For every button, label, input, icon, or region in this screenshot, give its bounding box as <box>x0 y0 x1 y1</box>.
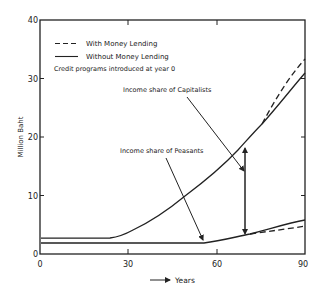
y-tick-40: 40 <box>28 16 38 25</box>
x-tick-60: 60 <box>212 260 222 269</box>
y-tick-0: 0 <box>33 250 38 259</box>
capitalists-leader-arrow-icon <box>187 97 244 171</box>
y-tick-20: 20 <box>28 133 38 142</box>
legend-solid-label: Without Money Lending <box>86 53 169 61</box>
capitalists-label: Income share of Capitalists <box>123 86 212 94</box>
axis-ticks <box>40 20 305 254</box>
capitalists-with-lending-line <box>262 59 305 124</box>
peasants-label: Income share of Peasants <box>120 147 204 155</box>
legend: With Money Lending Without Money Lending… <box>54 40 175 73</box>
legend-note: Credit programs introduced at year 0 <box>54 65 175 73</box>
y-tick-30: 30 <box>28 75 38 84</box>
x-tick-30: 30 <box>123 260 133 269</box>
capitalists-without-lending-line <box>41 73 305 238</box>
x-tick-labels: 0 30 60 90 <box>37 260 308 269</box>
y-tick-labels: 0 10 20 30 40 <box>28 16 38 259</box>
peasants-leader-arrow-icon <box>166 158 203 240</box>
y-tick-10: 10 <box>28 192 38 201</box>
y-axis-title: Million Baht <box>17 116 25 157</box>
legend-dashed-label: With Money Lending <box>86 40 157 48</box>
line-chart: 0 10 20 30 40 0 30 60 90 Million Baht Ye… <box>0 0 324 298</box>
x-tick-0: 0 <box>37 260 42 269</box>
x-tick-90: 90 <box>298 260 308 269</box>
x-axis-title: Years <box>174 276 195 285</box>
plot-frame <box>40 20 305 254</box>
